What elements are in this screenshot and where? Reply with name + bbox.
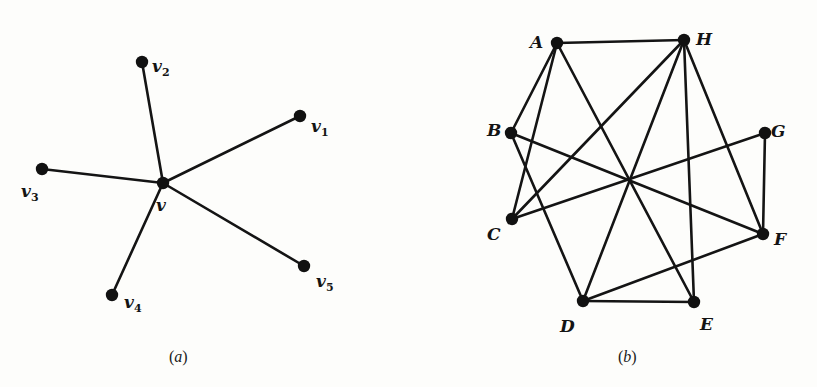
vertex-A bbox=[551, 37, 563, 49]
vertex-label-main: E bbox=[699, 314, 714, 334]
vertex-H bbox=[678, 34, 690, 46]
edge-D-E bbox=[583, 301, 694, 302]
graph-figure: vv1v2v3v4v5 (a) AHBGCFDE (b) bbox=[0, 0, 817, 387]
vertex-label-subscript: 4 bbox=[134, 302, 142, 315]
edge-v-v5 bbox=[163, 183, 304, 266]
vertex-v3 bbox=[36, 163, 48, 175]
vertex-label-main: A bbox=[528, 32, 543, 52]
vertex-label-main: G bbox=[771, 121, 786, 141]
edge-D-F bbox=[583, 234, 763, 301]
edge-A-H bbox=[557, 40, 684, 43]
vertex-E bbox=[688, 296, 700, 308]
edge-A-B bbox=[511, 43, 557, 133]
graph-a-caption: (a) bbox=[169, 348, 188, 366]
vertex-G bbox=[759, 127, 771, 139]
vertex-label-main: H bbox=[695, 29, 713, 49]
vertex-label-v2: v2 bbox=[152, 56, 170, 79]
figure-canvas: vv1v2v3v4v5 (a) AHBGCFDE (b) bbox=[0, 0, 817, 387]
vertex-v5 bbox=[298, 260, 310, 272]
vertex-label-v4: v4 bbox=[124, 292, 142, 315]
graph-a-labels: vv1v2v3v4v5 bbox=[21, 56, 334, 315]
graph-b-caption: (b) bbox=[618, 348, 637, 366]
edge-v-v3 bbox=[42, 169, 163, 183]
vertex-label-H: H bbox=[695, 29, 713, 49]
vertex-label-main: F bbox=[773, 229, 788, 249]
vertex-label-v5: v5 bbox=[316, 271, 334, 294]
graph-a-edges bbox=[42, 62, 304, 295]
vertex-label-v3: v3 bbox=[21, 181, 39, 204]
vertex-label-F: F bbox=[773, 229, 788, 249]
graph-b-vertices bbox=[505, 34, 771, 308]
vertex-label-v: v bbox=[156, 195, 167, 215]
vertex-label-G: G bbox=[771, 121, 786, 141]
vertex-label-subscript: 2 bbox=[162, 66, 170, 79]
graph-b: AHBGCFDE (b) bbox=[486, 29, 788, 366]
edge-H-D bbox=[583, 40, 684, 301]
vertex-label-E: E bbox=[699, 314, 714, 334]
vertex-label-A: A bbox=[528, 32, 543, 52]
vertex-label-subscript: 3 bbox=[31, 191, 39, 204]
vertex-label-main: B bbox=[486, 120, 501, 140]
vertex-v1 bbox=[294, 110, 306, 122]
vertex-label-B: B bbox=[486, 120, 501, 140]
vertex-label-main: v bbox=[156, 195, 167, 215]
vertex-v4 bbox=[106, 289, 118, 301]
edge-A-E bbox=[557, 43, 694, 302]
vertex-label-v1: v1 bbox=[311, 116, 329, 139]
vertex-C bbox=[506, 213, 518, 225]
vertex-D bbox=[577, 295, 589, 307]
edge-G-F bbox=[763, 133, 765, 234]
edge-A-C bbox=[512, 43, 557, 219]
edge-v-v2 bbox=[142, 62, 163, 183]
vertex-v bbox=[157, 177, 169, 189]
vertex-label-C: C bbox=[487, 224, 501, 244]
graph-a-star: vv1v2v3v4v5 (a) bbox=[21, 56, 334, 366]
vertex-v2 bbox=[136, 56, 148, 68]
vertex-F bbox=[757, 228, 769, 240]
vertex-label-subscript: 1 bbox=[321, 126, 329, 139]
graph-b-edges bbox=[511, 40, 765, 302]
vertex-label-main: D bbox=[559, 316, 575, 336]
edge-v-v1 bbox=[163, 116, 300, 183]
vertex-label-main: C bbox=[487, 224, 501, 244]
edge-C-G bbox=[512, 133, 765, 219]
vertex-label-subscript: 5 bbox=[326, 281, 334, 294]
vertex-label-D: D bbox=[559, 316, 575, 336]
vertex-B bbox=[505, 127, 517, 139]
